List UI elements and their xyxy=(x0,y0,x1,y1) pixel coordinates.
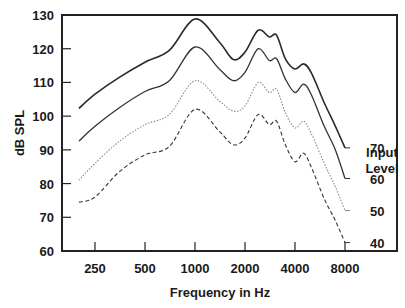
chart: 60708090100110120130 2505001000200040008… xyxy=(0,0,405,308)
y-axis-title: dB SPL xyxy=(12,110,27,156)
legend-label-70: 70 xyxy=(370,141,384,156)
x-tick-label: 250 xyxy=(84,261,106,276)
y-tick-label: 130 xyxy=(32,8,54,23)
y-axis: 60708090100110120130 xyxy=(32,8,71,259)
legend-label-60: 60 xyxy=(370,172,384,187)
x-tick-label: 8000 xyxy=(331,261,360,276)
y-tick-label: 90 xyxy=(40,143,54,158)
plot-frame xyxy=(62,15,397,251)
series-60-line xyxy=(79,47,345,179)
legend-label-50: 50 xyxy=(370,204,384,219)
data-series xyxy=(79,19,350,243)
y-tick-label: 120 xyxy=(32,42,54,57)
y-tick-label: 60 xyxy=(40,244,54,259)
x-tick-label: 2000 xyxy=(231,261,260,276)
x-axis: 2505001000200040008000 xyxy=(84,242,359,276)
x-tick-label: 1000 xyxy=(181,261,210,276)
y-tick-label: 70 xyxy=(40,210,54,225)
x-tick-label: 500 xyxy=(134,261,156,276)
series-70-line xyxy=(79,19,345,148)
series-50-line xyxy=(79,81,345,211)
y-tick-label: 80 xyxy=(40,177,54,192)
x-tick-label: 4000 xyxy=(281,261,310,276)
y-tick-label: 110 xyxy=(33,75,54,90)
x-axis-title: Frequency in Hz xyxy=(170,285,271,300)
legend: Input Level 70605040 xyxy=(365,141,398,251)
series-40-line xyxy=(79,109,345,242)
legend-label-40: 40 xyxy=(370,236,384,251)
plot-border xyxy=(62,15,397,251)
y-tick-label: 100 xyxy=(32,109,54,124)
